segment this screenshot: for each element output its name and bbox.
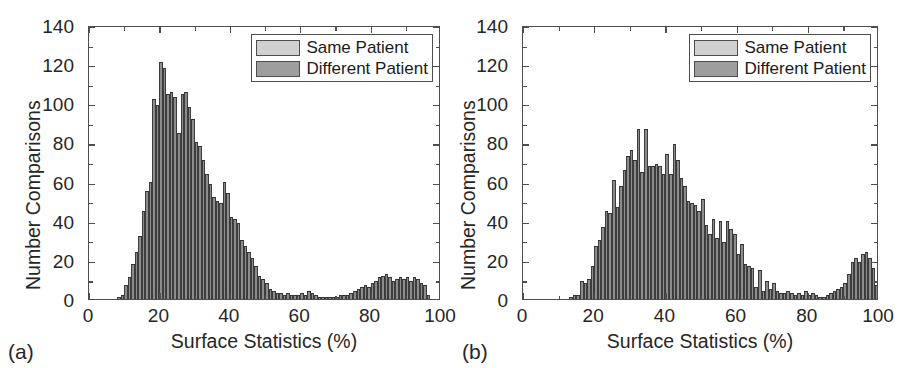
x-axis-title-a: Surface Statistics (%) — [88, 330, 440, 353]
x-axis-tick — [594, 27, 595, 33]
y-axis-minor-tick — [89, 125, 93, 126]
x-axis-minor-tick — [335, 27, 336, 31]
y-axis-tick — [871, 184, 877, 185]
legend-item-different-patient[interactable]: Different Patient — [694, 59, 866, 78]
x-tick-label: 60 — [269, 306, 329, 325]
x-axis-minor-tick — [701, 27, 702, 31]
x-axis-tick — [89, 27, 90, 33]
x-axis-minor-tick — [265, 27, 266, 31]
y-tick-label: 20 — [487, 252, 508, 271]
y-axis-minor-tick — [89, 281, 93, 282]
x-axis-tick — [808, 293, 809, 299]
chart-panel-a: Same Patient Different Patient 020406080… — [0, 0, 457, 368]
subplot-label-b: (b) — [462, 340, 488, 364]
x-axis-minor-tick — [195, 296, 196, 300]
x-axis-minor-tick — [195, 27, 196, 31]
x-axis-minor-tick — [843, 27, 844, 31]
y-axis-tick — [89, 144, 95, 145]
y-axis-tick — [523, 144, 529, 145]
y-axis-title-a: Number Comparisons — [22, 100, 45, 290]
y-axis-minor-tick — [89, 242, 93, 243]
subplot-label-a: (a) — [8, 340, 34, 364]
legend-label-same-patient: Same Patient — [306, 39, 408, 56]
legend-item-different-patient[interactable]: Different Patient — [256, 59, 428, 78]
x-axis-tick — [89, 293, 90, 299]
x-axis-tick — [665, 293, 666, 299]
y-axis-minor-tick — [523, 47, 527, 48]
x-axis-minor-tick — [630, 27, 631, 31]
y-axis-tick — [89, 105, 95, 106]
y-axis-minor-tick — [89, 86, 93, 87]
y-axis-tick — [871, 66, 877, 67]
y-tick-label: 120 — [42, 56, 74, 75]
y-axis-minor-tick — [89, 164, 93, 165]
legend-swatch-different-patient — [694, 61, 738, 77]
y-axis-minor-tick — [874, 47, 878, 48]
y-axis-minor-tick — [874, 125, 878, 126]
y-tick-label: 120 — [476, 56, 508, 75]
y-tick-label: 20 — [53, 252, 74, 271]
x-tick-label: 20 — [128, 306, 188, 325]
y-axis-tick — [871, 262, 877, 263]
y-axis-tick — [871, 144, 877, 145]
x-tick-label: 40 — [634, 306, 694, 325]
x-axis-tick — [371, 27, 372, 33]
y-axis-tick — [89, 184, 95, 185]
x-tick-label: 80 — [340, 306, 400, 325]
y-axis-tick — [871, 223, 877, 224]
x-axis-tick — [665, 27, 666, 33]
x-axis-tick — [737, 293, 738, 299]
y-axis-tick — [871, 27, 877, 28]
y-axis-minor-tick — [874, 281, 878, 282]
x-axis-tick — [808, 27, 809, 33]
histogram-bar — [427, 295, 431, 299]
y-axis-tick — [433, 262, 439, 263]
x-axis-tick — [159, 293, 160, 299]
y-axis-tick — [89, 223, 95, 224]
x-axis-tick — [230, 293, 231, 299]
y-axis-tick — [433, 66, 439, 67]
x-axis-minor-tick — [406, 296, 407, 300]
legend-item-same-patient[interactable]: Same Patient — [694, 38, 866, 57]
y-axis-tick — [433, 144, 439, 145]
y-axis-minor-tick — [523, 203, 527, 204]
legend-swatch-same-patient — [694, 40, 738, 56]
y-axis-minor-tick — [874, 242, 878, 243]
y-axis-minor-tick — [436, 47, 440, 48]
x-axis-tick-labels-b: 020406080100 — [522, 304, 878, 330]
x-axis-tick — [300, 293, 301, 299]
histogram-bar — [875, 285, 878, 299]
y-tick-label: 140 — [42, 17, 74, 36]
x-tick-label: 80 — [777, 306, 837, 325]
x-axis-tick — [594, 293, 595, 299]
y-tick-label: 40 — [487, 213, 508, 232]
x-axis-minor-tick — [124, 27, 125, 31]
x-axis-tick — [523, 27, 524, 33]
y-tick-label: 80 — [487, 134, 508, 153]
legend-label-different-patient: Different Patient — [744, 60, 866, 77]
x-tick-label: 100 — [848, 306, 908, 325]
legend-b: Same Patient Different Patient — [689, 34, 871, 82]
y-axis-tick — [433, 27, 439, 28]
x-axis-minor-tick — [335, 296, 336, 300]
y-axis-minor-tick — [89, 203, 93, 204]
y-axis-tick — [433, 184, 439, 185]
y-tick-label: 60 — [53, 174, 74, 193]
x-tick-label: 0 — [492, 306, 552, 325]
figure-container: Same Patient Different Patient 020406080… — [0, 0, 914, 368]
y-axis-tick — [523, 105, 529, 106]
y-tick-label: 80 — [53, 134, 74, 153]
y-tick-label: 40 — [53, 213, 74, 232]
legend-item-same-patient[interactable]: Same Patient — [256, 38, 428, 57]
y-axis-minor-tick — [523, 242, 527, 243]
x-tick-label: 40 — [199, 306, 259, 325]
x-axis-minor-tick — [843, 296, 844, 300]
y-axis-minor-tick — [874, 203, 878, 204]
y-axis-title-b: Number Comparisons — [457, 100, 480, 290]
legend-swatch-same-patient — [256, 40, 300, 56]
x-axis-minor-tick — [772, 296, 773, 300]
plot-axes-b: Same Patient Different Patient — [522, 26, 878, 300]
x-axis-tick-labels-a: 020406080100 — [88, 304, 440, 330]
legend-label-different-patient: Different Patient — [306, 60, 428, 77]
y-tick-label: 60 — [487, 174, 508, 193]
